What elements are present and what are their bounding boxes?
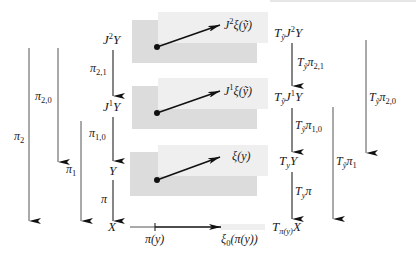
base-point-dot [154,177,160,183]
panel-j2: J2ξ(ỹ) [132,12,268,63]
shade-region-dark-bottom [132,109,257,129]
left-projection-column: J2Y π2,1 J1Y π1,0 Y π X π2 π2,0 π1 [14,31,122,234]
label-pi: π [101,192,108,206]
label-pi-y: π(y) [145,232,164,246]
label-t-pi1: Tỹπ1 [336,154,357,170]
base-space-line: π(y) ξ0(π(y)) [130,223,265,248]
label-pi10: π1,0 [89,126,106,142]
shade-region-light [158,145,268,176]
label-t-pi: Tyπ [295,184,312,200]
base-point-dot [154,110,160,116]
panel-j1: J1ξ(ỹ) [132,78,268,129]
node-t-x: Tπ(y)X [272,219,302,236]
shade-region-dark-left [132,20,158,43]
node-j1y: J1Y [103,98,122,114]
node-y: Y [109,163,118,178]
panel-j0: ξ(y) [130,145,268,196]
shade-strip [220,224,265,230]
label-xi0: ξ0(π(y)) [221,232,258,248]
label-j2-xi: J2ξ(ỹ) [224,16,252,32]
label-pi20: π2,0 [35,89,52,105]
jet-bundle-diagram: J2Y π2,1 J1Y π1,0 Y π X π2 π2,0 π1 J2ξ(ỹ… [0,0,416,256]
node-t-y: TyY [279,153,299,170]
shade-region-dark-bottom [130,176,257,196]
shade-region-dark-bottom [132,43,257,63]
base-point-dot [154,44,160,50]
label-t-pi21: Tỹπ2,1 [297,55,324,71]
label-pi21: π2,1 [90,61,107,77]
node-x: X [107,219,117,234]
label-t-pi10: Tỹπ1,0 [295,118,322,134]
label-pi2: π2 [14,129,24,145]
shade-region-dark-left [130,152,158,176]
node-j2y: J2Y [103,31,122,47]
label-j1-xi: J1ξ(ỹ) [224,82,252,98]
node-t-j1y: TỹJ1Y [274,88,304,106]
right-tangent-column: TỹJ2Y Tỹπ2,1 TỹJ1Y Tỹπ1,0 TyY Tyπ Tπ(y)X… [272,24,396,236]
node-t-j2y: TỹJ2Y [274,24,304,42]
shade-region-dark-left [132,86,158,109]
label-t-pi20: Tỹπ2,0 [369,90,396,106]
label-pi1: π1 [66,162,76,178]
label-xi-y: ξ(y) [232,149,250,163]
